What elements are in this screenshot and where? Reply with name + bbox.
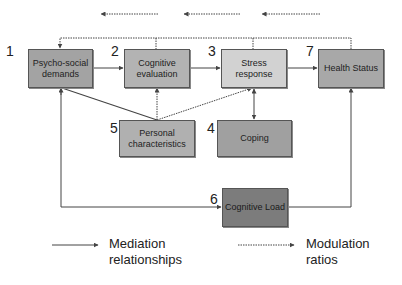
- node-cognitive-evaluation: Cognitive evaluation: [124, 49, 190, 88]
- node-stress-response: Stress response: [221, 49, 287, 88]
- node-coping: Coping: [217, 120, 292, 157]
- node-number-2: 2: [111, 44, 119, 58]
- edge-5-to-1: [62, 88, 157, 120]
- node-label: Cognitive evaluation: [125, 58, 189, 80]
- legend-modulation-line1: Modulation: [306, 236, 370, 252]
- node-number-5: 5: [110, 121, 118, 135]
- node-psycho-social-demands: Psycho-social demands: [28, 49, 93, 88]
- stress-model-diagram: 1 Psycho-social demands 2 Cognitive eval…: [0, 0, 402, 285]
- legend-modulation: Modulation ratios: [306, 236, 370, 268]
- edge-6-to-7: [287, 88, 351, 207]
- node-health-status: Health Status: [318, 49, 384, 88]
- node-label: Personal characteristics: [120, 128, 194, 150]
- legend-mediation-line1: Mediation: [109, 236, 182, 252]
- node-label: Psycho-social demands: [29, 58, 92, 80]
- legend-mediation-line2: relationships: [109, 252, 182, 268]
- node-number-4: 4: [207, 121, 215, 135]
- node-label: Coping: [240, 133, 269, 144]
- node-number-7: 7: [306, 44, 314, 58]
- node-cognitive-load: Cognitive Load: [222, 188, 288, 227]
- node-personal-characteristics: Personal characteristics: [119, 120, 195, 157]
- node-number-1: 1: [6, 44, 14, 58]
- edge-5-to-3: [157, 88, 252, 120]
- legend-modulation-line2: ratios: [306, 252, 370, 268]
- node-label: Cognitive Load: [225, 202, 285, 213]
- node-label: Health Status: [324, 63, 378, 74]
- node-number-6: 6: [210, 192, 218, 206]
- legend-mediation: Mediation relationships: [109, 236, 182, 268]
- node-label: Stress response: [222, 58, 286, 80]
- node-number-3: 3: [208, 44, 216, 58]
